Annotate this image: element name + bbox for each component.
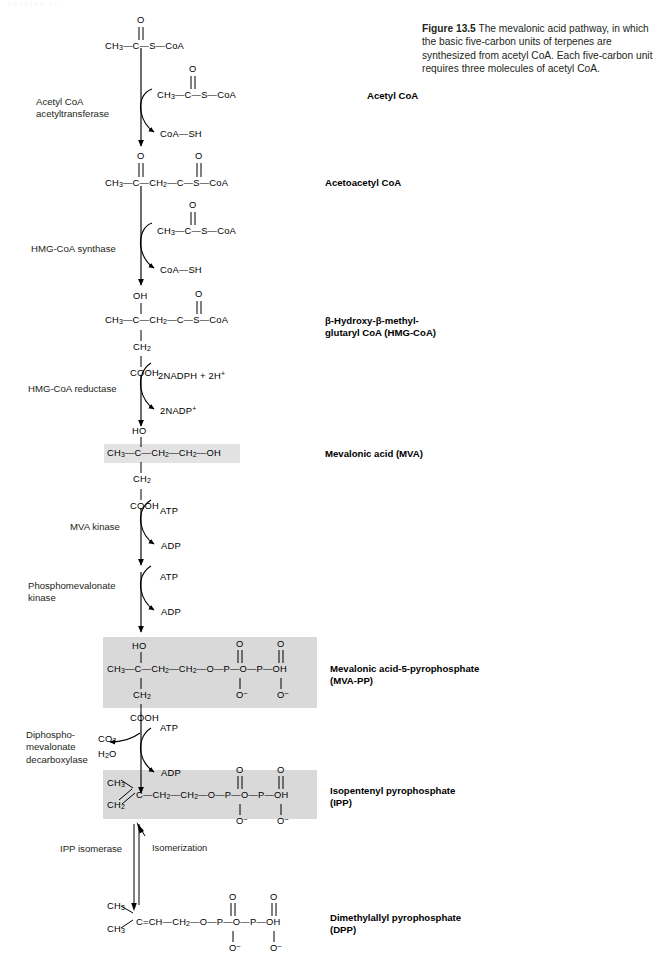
product-label-hmg-coa: β-Hydroxy-β-methyl- glutaryl CoA (HMG-Co… xyxy=(325,315,436,339)
atom-o-minus-mva-pp-2: O– xyxy=(277,689,289,700)
cofactor-atp-1: ATP xyxy=(160,505,178,516)
figure-canvas: CHAPTER 13 xyxy=(0,0,666,961)
pathway-arrows xyxy=(0,0,666,961)
enzyme-acetyl-coa-acetyltransferase: Acetyl CoA acetyltransferase xyxy=(36,96,109,121)
cofactor-nadp-out: 2NADP+ xyxy=(160,405,197,416)
molecule-mva-pp: CH3—C—CH2—CH2—O—P—O—P—OH xyxy=(107,663,287,674)
atom-o-minus-dpp-2: O– xyxy=(270,942,282,953)
figure-caption: Figure 13.5 The mevalonic acid pathway, … xyxy=(422,22,654,76)
enzyme-hmg-coa-synthase: HMG-CoA synthase xyxy=(31,243,116,255)
atom-o-hmg-coa: O xyxy=(195,288,203,299)
product-label-mva-pp: Mevalonic acid-5-pyrophosphate (MVA-PP) xyxy=(330,663,479,687)
product-label-dpp: Dimethylallyl pyrophosphate (DPP) xyxy=(330,912,461,936)
molecule-acetyl-coa-top: CH3—C—S—CoA xyxy=(105,40,184,51)
molecule-hmg-coa: CH3—C—CH2—C—S—CoA xyxy=(105,314,228,325)
molecule-ipp: C—CH2—CH2—O—P—O—P—OH xyxy=(136,789,288,800)
product-label-acetoacetyl-coa: Acetoacetyl CoA xyxy=(325,177,401,189)
atom-o-minus-ipp-2: O– xyxy=(277,815,289,826)
cofactor-atp-3: ATP xyxy=(160,722,178,733)
atom-ho-mva-pp: HO xyxy=(132,640,146,651)
atom-o-ipp-p2: O xyxy=(277,764,285,775)
enzyme-phosphomevalonate-kinase: Phosphomevalonate kinase xyxy=(28,580,115,605)
branch-ch2-ipp: CH2 xyxy=(107,799,125,810)
cofactor-coa-sh-2: CoA—SH xyxy=(160,264,202,275)
atom-o-ipp-p1: O xyxy=(236,764,244,775)
atom-o-mva-pp-p1: O xyxy=(236,638,244,649)
atom-o-acetoacetyl-right: O xyxy=(195,150,203,161)
isomerization-note: Isomerization xyxy=(152,843,207,853)
atom-o-acetyl-coa-side-2: O xyxy=(189,199,197,210)
product-label-acetyl-coa: Acetyl CoA xyxy=(367,90,418,102)
atom-o-minus-mva-pp-1: O– xyxy=(236,689,248,700)
page-header-ghost: CHAPTER 13 xyxy=(8,1,59,7)
cofactor-adp-2: ADP xyxy=(161,606,181,617)
branch-ch2-mva-pp: CH2 xyxy=(133,689,151,700)
cofactor-adp-1: ADP xyxy=(161,540,181,551)
atom-o-minus-ipp-1: O– xyxy=(236,815,248,826)
cofactor-coa-sh-1: CoA—SH xyxy=(160,128,202,139)
cofactor-h2o: H2O xyxy=(98,748,117,759)
cofactor-co2: CO2 xyxy=(98,733,117,744)
atom-o-acetyl-coa-side-1: O xyxy=(189,63,197,74)
atom-o-minus-dpp-1: O– xyxy=(229,942,241,953)
enzyme-ipp-isomerase: IPP isomerase xyxy=(60,843,122,855)
branch-ch3-ipp: CH3 xyxy=(107,777,125,788)
atom-o-mva-pp-p2: O xyxy=(277,638,285,649)
molecule-mevalonic-acid: CH3—C—CH2—CH2—OH xyxy=(107,447,221,458)
enzyme-hmg-coa-reductase: HMG-CoA reductase xyxy=(28,383,117,395)
branch-ch3-dpp-top: CH3 xyxy=(107,900,125,911)
cofactor-atp-2: ATP xyxy=(160,571,178,582)
molecule-acetyl-coa-side-2: CH3—C—S—CoA xyxy=(157,225,236,236)
cofactor-adp-3: ADP xyxy=(161,767,181,778)
molecule-acetyl-coa-side-1: CH3—C—S—CoA xyxy=(157,89,236,100)
product-label-ipp: Isopentenyl pyrophosphate (IPP) xyxy=(330,785,455,809)
atom-o-acetoacetyl-left: O xyxy=(137,150,145,161)
branch-cooh-mva-pp: COOH xyxy=(130,712,159,723)
enzyme-diphosphomevalonate-decarboxylase: Diphospho- mevalonate decarboxylase xyxy=(26,729,88,766)
atom-o-acetyl-coa-top: O xyxy=(137,14,145,25)
branch-cooh-hmg-coa: COOH xyxy=(130,367,159,378)
figure-number: Figure 13.5 xyxy=(422,23,476,34)
branch-ch3-dpp-bottom: CH3 xyxy=(107,923,125,934)
atom-o-dpp-p1: O xyxy=(229,891,237,902)
molecule-acetoacetyl-coa: CH3—C—CH2—C—S—CoA xyxy=(105,177,228,188)
atom-oh-hmg-coa: OH xyxy=(133,290,147,301)
branch-ch2-hmg-coa: CH2 xyxy=(133,341,151,352)
atom-o-dpp-p2: O xyxy=(270,891,278,902)
cofactor-nadph-in: 2NADPH + 2H+ xyxy=(158,370,225,381)
branch-cooh-mevalonic-acid: COOH xyxy=(130,500,159,511)
atom-ho-mevalonic-acid: HO xyxy=(132,425,146,436)
branch-ch2-mevalonic-acid: CH2 xyxy=(133,473,151,484)
product-label-mevalonic-acid: Mevalonic acid (MVA) xyxy=(325,448,423,460)
molecule-dpp: C=CH—CH2—O—P—O—P—OH xyxy=(136,916,280,927)
enzyme-mva-kinase: MVA kinase xyxy=(70,521,120,533)
